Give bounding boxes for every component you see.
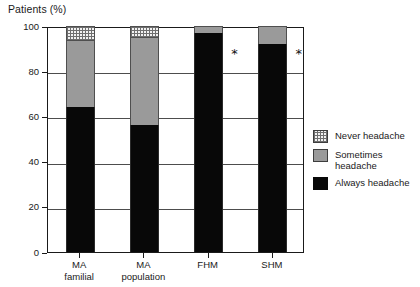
y-axis-tick-label: 20: [28, 201, 39, 212]
x-axis-label-1: MAfamilial: [43, 259, 115, 282]
x-axis-label-line1: FHM: [172, 259, 244, 271]
bar-segment-always-headache: [66, 107, 95, 252]
bar-segment-sometimes-headache: [194, 26, 223, 33]
tick-mark: [42, 253, 47, 254]
bar-segment-sometimes-headache: [258, 26, 287, 44]
tick-mark: [42, 117, 47, 118]
y-axis-tick-label: 60: [28, 111, 39, 122]
stacked-bar: [258, 26, 287, 252]
legend-item-always: Always headache: [313, 177, 418, 190]
y-axis-tick-label: 80: [28, 66, 39, 77]
bar-segment-never-headache: [130, 26, 159, 37]
bar-segment-sometimes-headache: [66, 40, 95, 108]
x-axis-label-line1: SHM: [236, 259, 308, 271]
significance-asterisk-fhm: *: [231, 47, 238, 60]
x-axis-tick: [272, 253, 273, 258]
bar-segment-sometimes-headache: [130, 37, 159, 125]
x-axis-tick: [208, 253, 209, 258]
stacked-bar: [66, 26, 95, 252]
legend-label-always: Always headache: [335, 177, 409, 188]
x-axis-tick: [143, 253, 144, 258]
stacked-bar: [130, 26, 159, 252]
bar-segment-always-headache: [194, 33, 223, 252]
tick-mark: [42, 27, 47, 28]
always-headache-swatch-icon: [313, 177, 328, 190]
y-axis-tick-label: 40: [28, 156, 39, 167]
plot-area: [47, 27, 304, 253]
x-axis-label-4: SHM: [236, 259, 308, 271]
legend-label-sometimes: Sometimes headache: [335, 149, 383, 171]
legend-item-never: Never headache: [313, 130, 418, 143]
bar-segment-always-headache: [130, 125, 159, 252]
legend-label-never: Never headache: [335, 130, 405, 141]
chart-legend: Never headache Sometimes headache Always…: [313, 130, 418, 196]
x-axis-label-3: FHM: [172, 259, 244, 271]
tick-mark: [42, 72, 47, 73]
x-axis-label-line2: familial: [43, 271, 115, 283]
x-axis-label-line1: MA: [107, 259, 179, 271]
x-axis-tick: [79, 253, 80, 258]
significance-asterisk-shm: *: [295, 47, 302, 60]
sometimes-headache-swatch-icon: [313, 149, 328, 162]
stacked-bar: [194, 26, 223, 252]
bar-segment-always-headache: [258, 44, 287, 252]
legend-item-sometimes: Sometimes headache: [313, 149, 418, 171]
x-axis-label-line1: MA: [43, 259, 115, 271]
x-axis-label-2: MApopulation: [107, 259, 179, 282]
tick-mark: [42, 207, 47, 208]
never-headache-swatch-icon: [313, 130, 328, 143]
bar-segment-never-headache: [66, 26, 95, 40]
y-axis-tick-label: 100: [23, 21, 39, 32]
y-axis-tick-label: 0: [34, 247, 39, 258]
page-title: Patients (%): [8, 3, 66, 15]
x-axis-label-line2: population: [107, 271, 179, 283]
tick-mark: [42, 162, 47, 163]
